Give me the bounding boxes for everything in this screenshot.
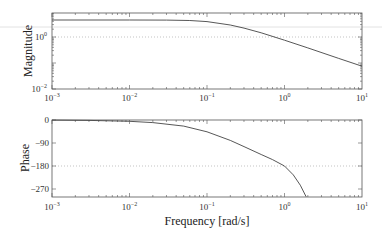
phase-x-tick-labels: 10−310−210−1100101 <box>44 201 368 212</box>
tick-label: −90 <box>35 138 50 148</box>
tick-label: 100 <box>279 92 291 103</box>
tick-label: 10−1 <box>199 201 214 212</box>
tick-label: 10−3 <box>44 92 59 103</box>
tick-label: 100 <box>35 31 47 42</box>
phase-y-tick-labels: 0−90−180−270 <box>30 115 49 194</box>
frequency-axis-title: Frequency [rad/s] <box>165 214 250 228</box>
phase-curve <box>52 120 306 197</box>
tick-label: 10−2 <box>122 92 137 103</box>
tick-label: −180 <box>30 161 49 171</box>
tick-label: 101 <box>356 92 368 103</box>
magnitude-axis-title: Magnitude <box>21 25 35 77</box>
tick-label: 10−3 <box>44 201 59 212</box>
magnitude-axes-box <box>52 13 362 89</box>
tick-label: 100 <box>279 201 291 212</box>
magnitude-ticks <box>52 13 362 89</box>
tick-label: 10−1 <box>199 92 214 103</box>
magnitude-x-tick-labels: 10−310−210−1100101 <box>44 92 368 103</box>
tick-label: 101 <box>356 201 368 212</box>
tick-label: 0 <box>45 115 50 125</box>
tick-label: −270 <box>30 184 49 194</box>
tick-label: 10−2 <box>122 201 137 212</box>
bode-plot: 10010−2 10−310−210−1100101 Magnitude 0−9… <box>0 0 382 237</box>
phase-axis-title: Phase <box>18 144 32 172</box>
phase-panel: 0−90−180−270 10−310−210−1100101 Phase Fr… <box>18 115 368 228</box>
